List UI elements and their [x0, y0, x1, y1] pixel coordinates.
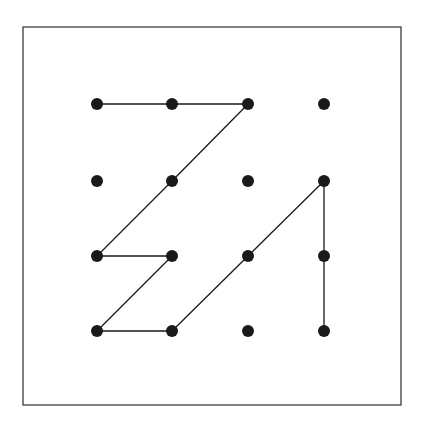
grid-dot: [242, 325, 254, 337]
grid-dot: [91, 325, 103, 337]
grid-dot: [91, 98, 103, 110]
grid-dot: [166, 250, 178, 262]
grid-dot: [166, 98, 178, 110]
grid-dot: [242, 98, 254, 110]
grid-dot: [91, 175, 103, 187]
diagram-frame: [23, 27, 401, 405]
grid-dot: [318, 175, 330, 187]
grid-dot: [318, 325, 330, 337]
grid-dot: [318, 98, 330, 110]
grid-dot: [318, 250, 330, 262]
grid-dot: [166, 175, 178, 187]
grid-dot: [166, 325, 178, 337]
dot-grid-diagram: [0, 0, 425, 423]
grid-dot: [91, 250, 103, 262]
grid-dot: [242, 250, 254, 262]
grid-dot: [242, 175, 254, 187]
